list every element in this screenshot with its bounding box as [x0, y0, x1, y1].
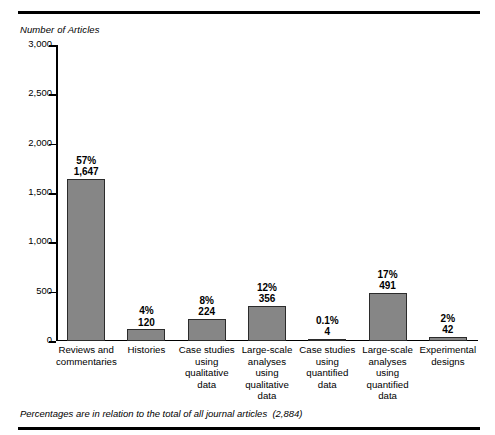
x-axis-category-label-line: Reviews and [56, 344, 116, 356]
x-axis-category-label-line: Case studies [177, 344, 237, 356]
x-axis-category-label: Experimentaldesigns [418, 344, 478, 367]
bottom-rule [18, 427, 480, 430]
x-axis-category-label-line: Large-scale [357, 344, 417, 356]
bar-value-labels: 12%356 [257, 282, 277, 305]
x-axis-category-label: Case studiesusingquantifieddata [297, 344, 357, 390]
x-axis-category-label-line: Histories [116, 344, 176, 356]
y-axis-tick-label: 0 [47, 334, 52, 345]
x-axis-category-label-line: data [237, 390, 297, 402]
x-axis-category-labels: Reviews andcommentariesHistoriesCase stu… [56, 344, 478, 402]
bar: 2%42 [429, 337, 467, 341]
bar-count-label: 42 [441, 324, 455, 336]
bar-value-labels: 4%120 [138, 305, 155, 328]
bar-value-labels: 2%42 [441, 313, 455, 336]
figure-chart-article-types: Number of Articles 3,0002,5002,0001,5001… [0, 0, 495, 435]
y-axis-tick-label: 500 [36, 285, 52, 296]
x-axis-category-label-line: data [297, 379, 357, 391]
bar-percent-label: 0.1% [316, 315, 339, 327]
x-axis-category-label-line: using [237, 367, 297, 379]
x-axis-category-label-line: data [177, 379, 237, 391]
x-axis-category-label-line: using [297, 356, 357, 368]
top-rule [18, 11, 480, 14]
x-axis-category-label-line: qualitative [237, 379, 297, 391]
y-axis-tick-label: 1,000 [28, 235, 52, 246]
x-axis-category-label-line: using [357, 367, 417, 379]
y-axis-tick-label: 3,000 [28, 38, 52, 49]
bar-value-labels: 0.1%4 [316, 315, 339, 338]
bar-value-labels: 8%224 [198, 295, 215, 318]
x-axis-category-label-line: quantified [297, 367, 357, 379]
x-axis-category-label-line: analyses [357, 356, 417, 368]
x-axis-category-label-line: quantified [357, 379, 417, 391]
x-axis-category-label: Reviews andcommentaries [56, 344, 116, 367]
x-axis-category-label: Large-scaleanalysesusingqualitativedata [237, 344, 297, 402]
x-axis-category-label-line: using [177, 356, 237, 368]
y-axis-title: Number of Articles [20, 24, 100, 35]
bar: 17%491 [369, 293, 407, 341]
bar-count-label: 4 [316, 326, 339, 338]
x-axis-category-label: Case studiesusingqualitativedata [177, 344, 237, 390]
bar-value-labels: 17%491 [378, 269, 398, 292]
bar-count-label: 224 [198, 306, 215, 318]
bar-count-label: 120 [138, 317, 155, 329]
bar: 12%356 [248, 306, 286, 341]
bar-count-label: 356 [257, 293, 277, 305]
footnote: Percentages are in relation to the total… [20, 408, 303, 419]
bar-percent-label: 17% [378, 269, 398, 281]
bar-percent-label: 12% [257, 282, 277, 294]
x-axis-category-label-line: data [357, 390, 417, 402]
y-axis-tick-label: 2,000 [28, 137, 52, 148]
bar-percent-label: 4% [138, 305, 155, 317]
x-axis-category-label-line: commentaries [56, 356, 116, 368]
x-axis-category-label-line: Case studies [297, 344, 357, 356]
x-axis-category-label-line: Experimental [418, 344, 478, 356]
bar: 57%1,647 [67, 179, 105, 342]
x-axis-category-label-line: analyses [237, 356, 297, 368]
bar: 0.1%4 [308, 339, 346, 342]
bar-percent-label: 57% [74, 155, 99, 167]
bar: 8%224 [188, 319, 226, 341]
y-axis-tick-label: 1,500 [28, 186, 52, 197]
bar-percent-label: 8% [198, 295, 215, 307]
bar-count-label: 1,647 [74, 166, 99, 178]
bar: 4%120 [127, 329, 165, 341]
y-axis-line [56, 45, 58, 341]
bar-percent-label: 2% [441, 313, 455, 325]
y-axis-tick-label: 2,500 [28, 87, 52, 98]
bar-count-label: 491 [378, 280, 398, 292]
x-axis-category-label-line: qualitative [177, 367, 237, 379]
bar-value-labels: 57%1,647 [74, 155, 99, 178]
x-axis-category-label: Large-scaleanalysesusingquantifieddata [357, 344, 417, 402]
x-axis-category-label-line: Large-scale [237, 344, 297, 356]
plot-area: 3,0002,5002,0001,5001,0005000 57%1,6474%… [56, 45, 478, 341]
x-axis-category-label-line: designs [418, 356, 478, 368]
x-axis-category-label: Histories [116, 344, 176, 356]
